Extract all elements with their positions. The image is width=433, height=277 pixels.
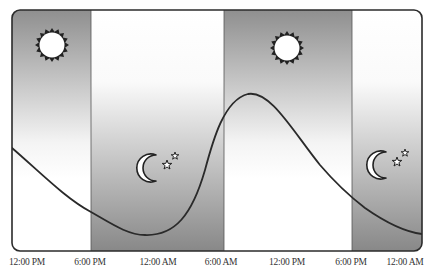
sun-icon xyxy=(35,28,69,62)
x-axis-label: 6:00 PM xyxy=(335,257,367,267)
night-panel-1 xyxy=(91,10,224,251)
x-axis-label: 12:00 AM xyxy=(386,257,423,267)
x-axis-label: 12:00 AM xyxy=(139,257,176,267)
sun-icon xyxy=(270,31,304,65)
night-panel-2 xyxy=(352,10,422,251)
x-axis-label: 6:00 PM xyxy=(74,257,106,267)
day-night-diagram xyxy=(0,0,433,277)
x-axis-label: 12:00 PM xyxy=(9,257,45,267)
x-axis-label: 12:00 PM xyxy=(269,257,305,267)
x-axis-label: 6:00 AM xyxy=(205,257,238,267)
